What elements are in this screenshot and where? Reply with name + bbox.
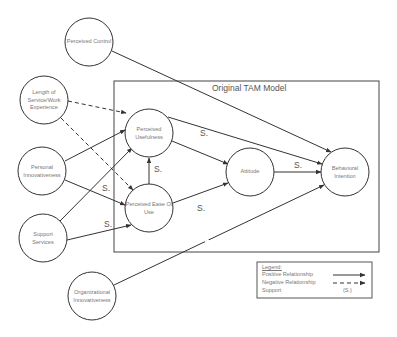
legend-support-label: Support [262,287,281,294]
support-label-ss-peou: S. [104,219,112,229]
support-label-pi-peou: S. [102,183,110,193]
label-length-of-service: Length of Service/Work Experience [22,89,66,112]
label-support-services: Support Services [28,231,58,246]
label-perceived-control: Perceived Control [65,38,113,46]
edge-ss-pu [60,148,132,221]
support-label-peou-pu: S. [154,164,162,174]
legend-positive-label: Positive Relationship [262,271,313,278]
label-perceived-ease-of-use: Perceived Ease Of Use [125,201,173,216]
support-label-att-bi: S. [294,160,302,170]
edge-pi-pu [65,130,125,161]
support-label-pu-att: S. [200,128,208,138]
edge-pu-att [172,141,228,164]
label-personal-innovativeness: Personal Innovativeness [18,164,66,179]
legend-support-symbol: (S.) [343,287,352,294]
edge-los-pu [68,101,126,113]
label-perceived-usefulness: Perceived Usefulness [129,126,169,141]
edge-ss-peou [67,225,131,240]
edge-los-peou [61,118,133,190]
label-behavioral-intention: Behavioral Intention [326,165,364,180]
legend-title: Legend: [262,264,282,271]
label-attitude: Attitude [226,168,274,176]
label-organizational-innovativeness: Organizational Innovativeness [70,289,114,304]
legend-negative-label: Negative Relationship [262,279,316,286]
support-label-peou-att: S. [197,203,205,213]
edge-peou-att [173,183,228,203]
edge-pi-peou [65,180,125,205]
tam-diagram: Original TAM Model Perceived Control Len… [0,0,397,337]
tam-model-title: Original TAM Model [212,83,286,93]
